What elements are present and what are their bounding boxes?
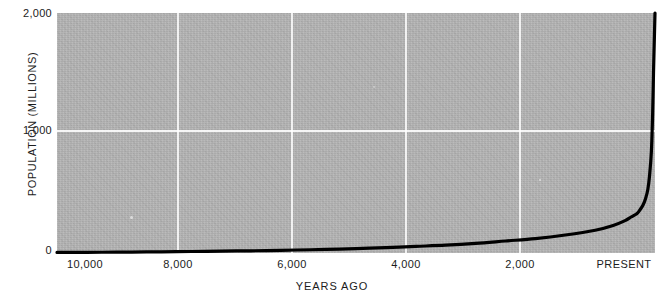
x-tick-label-10000: 10,000: [67, 258, 103, 270]
plot-area: [57, 13, 655, 253]
x-tick-label-4000: 4,000: [391, 258, 421, 270]
population-growth-chart: 2,000 1,000 0 POPULATION (MILLIONS) 10,0…: [0, 0, 664, 303]
x-tick-label-2000: 2,000: [505, 258, 535, 270]
population-curve: [57, 13, 655, 253]
x-axis-title: YEARS AGO: [0, 280, 664, 292]
x-tick-label-8000: 8,000: [163, 258, 193, 270]
x-tick-label-6000: 6,000: [277, 258, 307, 270]
y-tick-label-2000: 2,000: [0, 7, 52, 19]
y-axis-title: POPULATION (MILLIONS): [26, 29, 38, 219]
y-tick-label-0: 0: [0, 244, 52, 256]
x-tick-label-present: PRESENT: [597, 258, 652, 270]
population-curve-path: [57, 13, 655, 252]
